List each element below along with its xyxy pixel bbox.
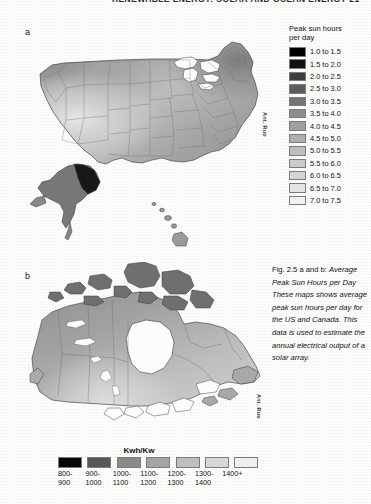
legend-row: 6.0 to 6.5 [289, 170, 371, 182]
kwh-legend-labels: 800-900900-10001000-11001100-12001200-13… [58, 469, 263, 488]
caption-body: Average Peak Sun Hours per Day These map… [272, 265, 367, 362]
legend-title-line1: Peak sun hours [289, 24, 371, 33]
legend-swatch [289, 59, 306, 69]
legend-row: 6.5 to 7.0 [289, 182, 371, 194]
kwh-label: 1200-1300 [168, 469, 190, 488]
legend-swatch [289, 171, 306, 181]
us-solar-map [22, 32, 280, 257]
kwh-label-bottom: 1300 [168, 478, 190, 487]
legend-swatch [289, 196, 306, 206]
kwh-label-top: 1200- [168, 469, 190, 478]
legend-row: 3.0 to 3.5 [289, 95, 371, 107]
caption-head: Fig. 2.5 a and b: [272, 265, 327, 274]
peak-sun-hours-legend: Peak sun hours per day 1.0 to 1.51.5 to … [289, 24, 371, 207]
figure-caption: Fig. 2.5 a and b: Average Peak Sun Hours… [272, 264, 367, 365]
alaska-inset [30, 164, 100, 240]
hawaii-inset [152, 202, 188, 246]
legend-row: 1.0 to 1.5 [289, 46, 371, 58]
kwh-swatch [146, 457, 170, 468]
kwh-label-bottom: 1000 [85, 478, 107, 487]
legend-swatch [289, 121, 306, 131]
legend-label: 2.5 to 3.0 [310, 84, 341, 93]
legend-label: 2.0 to 2.5 [310, 72, 341, 81]
legend-swatch [289, 159, 306, 169]
legend-row: 4.0 to 4.5 [289, 120, 371, 132]
kwh-swatch [205, 457, 229, 468]
legend-row: 4.5 to 5.0 [289, 132, 371, 144]
kwh-label: 800-900 [58, 469, 80, 488]
legend-label: 4.5 to 5.0 [310, 134, 341, 143]
legend-swatch [289, 109, 306, 119]
legend-row: 2.0 to 2.5 [289, 70, 371, 82]
kwh-swatch [87, 457, 111, 468]
kwh-label-top: 1000- [113, 469, 135, 478]
legend-label: 1.0 to 1.5 [310, 47, 341, 56]
us-map-svg [22, 32, 280, 257]
legend-swatch [289, 134, 306, 144]
legend-label: 7.0 to 7.5 [310, 196, 341, 205]
kwh-label-top: 1400+ [222, 469, 244, 478]
us-conus-shading [22, 32, 280, 172]
kwh-label: 1400+ [222, 469, 244, 488]
legend-label: 5.0 to 5.5 [310, 146, 341, 155]
kwh-legend-title: Kwh/Kw [64, 446, 214, 455]
legend-rows: 1.0 to 1.51.5 to 2.02.0 to 2.52.5 to 3.0… [289, 46, 371, 207]
legend-label: 6.0 to 6.5 [310, 171, 341, 180]
kwh-label: 1300-1400 [195, 469, 217, 488]
kwh-label-bottom: 900 [58, 478, 80, 487]
book-page: RENEWABLE ENERGY: SOLAR AND OCEAN ENERGY… [0, 0, 371, 504]
kwh-label-bottom: 1400 [195, 478, 217, 487]
legend-swatch [289, 72, 306, 82]
map-attribution-a: Ant. Ruo [262, 112, 268, 137]
legend-row: 3.5 to 4.0 [289, 108, 371, 120]
legend-swatch [289, 84, 306, 94]
legend-row: 7.0 to 7.5 [289, 194, 371, 206]
kwh-label-bottom: 1200 [140, 478, 162, 487]
legend-label: 3.0 to 3.5 [310, 97, 341, 106]
kwh-swatch [176, 457, 200, 468]
legend-swatch [289, 47, 306, 57]
legend-label: 4.0 to 4.5 [310, 122, 341, 131]
canada-solar-map [28, 262, 268, 444]
legend-label: 3.5 to 4.0 [310, 109, 341, 118]
legend-label: 6.5 to 7.0 [310, 184, 341, 193]
running-head: RENEWABLE ENERGY: SOLAR AND OCEAN ENERGY… [112, 0, 362, 3]
legend-row: 5.0 to 5.5 [289, 145, 371, 157]
kwh-label: 900-1000 [85, 469, 107, 488]
legend-title: Peak sun hours per day [289, 24, 371, 43]
kwh-swatch [234, 457, 258, 468]
legend-label: 1.5 to 2.0 [310, 60, 341, 69]
legend-swatch [289, 146, 306, 156]
legend-label: 5.5 to 6.0 [310, 159, 341, 168]
legend-row: 2.5 to 3.0 [289, 83, 371, 95]
kwh-label: 1000-1100 [113, 469, 135, 488]
kwh-legend-swatches [58, 457, 263, 468]
kwh-label: 1100-1200 [140, 469, 162, 488]
legend-title-line2: per day [289, 33, 371, 42]
legend-row: 5.5 to 6.0 [289, 157, 371, 169]
legend-swatch [289, 97, 306, 107]
legend-swatch [289, 183, 306, 193]
legend-row: 1.5 to 2.0 [289, 58, 371, 70]
kwh-label-bottom: 1100 [113, 478, 135, 487]
canada-map-svg [28, 262, 268, 444]
kwh-label-top: 1300- [195, 469, 217, 478]
kwh-label-top: 1100- [140, 469, 162, 478]
map-attribution-b: Ant. Ruo [256, 394, 262, 419]
kwh-label-top: 900- [85, 469, 107, 478]
kwh-swatch [117, 457, 141, 468]
kwh-per-kw-legend: Kwh/Kw 800-900900-10001000-11001100-1200… [58, 446, 263, 488]
kwh-label-top: 800- [58, 469, 80, 478]
kwh-swatch [58, 457, 82, 468]
